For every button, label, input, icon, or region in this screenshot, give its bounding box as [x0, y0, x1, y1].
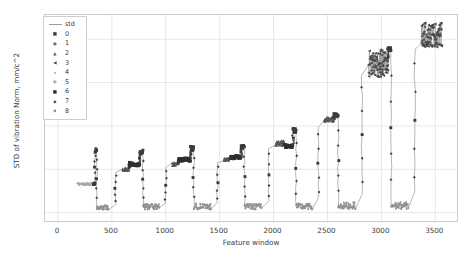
x-tick-label: 500	[89, 226, 133, 235]
marker-point-icon	[47, 68, 63, 77]
legend-item-cluster-6: 6	[47, 87, 82, 97]
legend-label-0: 0	[65, 30, 69, 39]
legend-label-1: 1	[65, 39, 69, 48]
line-icon	[47, 20, 63, 29]
legend-item-cluster-0: 0	[47, 30, 82, 40]
legend-item-cluster-1: 1	[47, 39, 82, 49]
marker-square-icon	[47, 87, 63, 96]
legend-item-cluster-5: 5	[47, 78, 82, 88]
chart-canvas	[45, 15, 459, 223]
legend: std 012345678	[43, 16, 87, 120]
x-tick-label: 1000	[143, 226, 187, 235]
legend-label-6: 6	[65, 87, 69, 96]
legend-item-cluster-2: 2	[47, 49, 82, 59]
legend-label-5: 5	[65, 78, 69, 87]
marker-diamond-icon	[47, 97, 63, 106]
legend-label-7: 7	[65, 97, 69, 106]
marker-square-icon	[47, 30, 63, 39]
x-axis-label: Feature window	[44, 238, 458, 247]
legend-item-std: std	[47, 20, 82, 30]
legend-item-cluster-4: 4	[47, 68, 82, 78]
plot-area	[44, 14, 458, 222]
legend-label-4: 4	[65, 68, 69, 77]
y-axis-label: STD of vibration Norm, mm/c^2	[12, 11, 21, 211]
marker-circle-icon	[47, 39, 63, 48]
x-tick-label: 0	[35, 226, 79, 235]
figure: STD of vibration Norm, mm/c^2 0.00.51.01…	[0, 0, 476, 256]
x-tick-label: 2000	[251, 226, 295, 235]
x-tick-label: 2500	[304, 226, 348, 235]
x-tick-label: 3500	[412, 226, 456, 235]
legend-label-3: 3	[65, 59, 69, 68]
legend-item-cluster-3: 3	[47, 58, 82, 68]
x-tick-label: 1500	[197, 226, 241, 235]
legend-label-std: std	[65, 20, 75, 29]
marker-triangle-left-icon	[47, 59, 63, 68]
marker-triangle-up-icon	[47, 49, 63, 58]
legend-label-8: 8	[65, 107, 69, 116]
y-axis-label-wrapper: STD of vibration Norm, mm/c^2	[2, 14, 16, 222]
marker-plus-icon	[47, 78, 63, 87]
marker-circle-small-icon	[47, 107, 63, 116]
x-tick-label: 3000	[358, 226, 402, 235]
legend-item-cluster-7: 7	[47, 97, 82, 107]
legend-item-cluster-8: 8	[47, 106, 82, 116]
legend-label-2: 2	[65, 49, 69, 58]
legend-cluster-items: 012345678	[47, 30, 82, 116]
